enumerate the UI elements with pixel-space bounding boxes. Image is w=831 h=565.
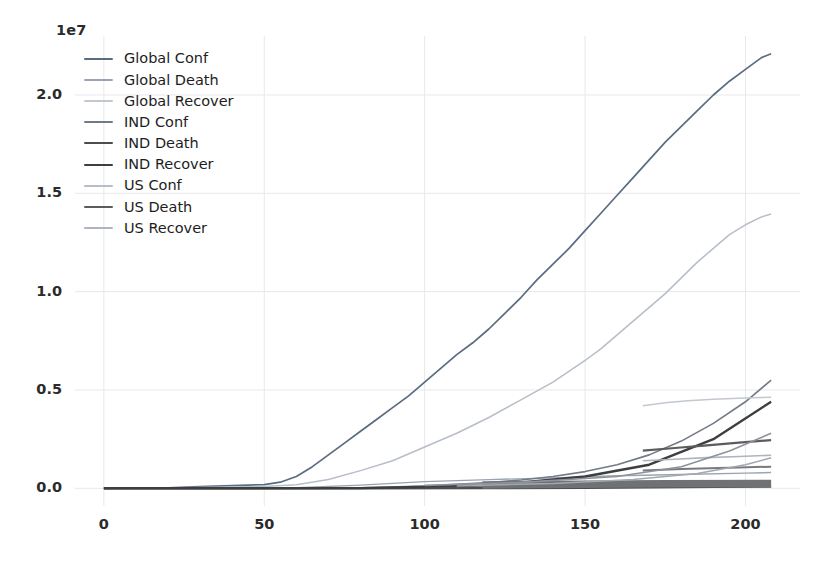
y-tick-label: 1.5: [36, 184, 62, 200]
legend-line-swatch: [84, 142, 113, 144]
legend-item-label: US Death: [124, 200, 192, 215]
legend-item: Global Conf: [84, 48, 234, 69]
legend-item-label: Global Recover: [124, 94, 234, 109]
series-line: [643, 397, 771, 405]
legend-item-label: Global Conf: [124, 51, 208, 66]
legend-item: US Recover: [84, 218, 234, 239]
legend-item: US Conf: [84, 175, 234, 196]
x-tick-label: 150: [570, 516, 600, 532]
x-tick-label: 50: [254, 516, 274, 532]
x-tick-label: 200: [730, 516, 760, 532]
legend-item-label: IND Recover: [124, 157, 214, 172]
legend-line-swatch: [84, 58, 113, 60]
legend-line-swatch: [84, 79, 113, 81]
legend-item-label: IND Death: [124, 136, 199, 151]
legend-item-label: Global Death: [124, 73, 219, 88]
legend-item: IND Conf: [84, 112, 234, 133]
legend-item-label: IND Conf: [124, 115, 188, 130]
y-tick-label: 1.0: [36, 283, 62, 299]
legend-item: IND Death: [84, 133, 234, 154]
y-tick-label: 0.5: [36, 381, 62, 397]
legend-line-swatch: [84, 164, 113, 166]
chart-legend: Global ConfGlobal DeathGlobal RecoverIND…: [84, 48, 234, 239]
legend-line-swatch: [84, 206, 113, 208]
legend-line-swatch: [84, 100, 113, 102]
legend-item: Global Recover: [84, 90, 234, 111]
legend-line-swatch: [84, 121, 113, 123]
y-tick-label: 2.0: [36, 86, 62, 102]
series-line: [104, 214, 771, 488]
series-line: [425, 433, 771, 485]
x-tick-label: 100: [410, 516, 440, 532]
legend-item: Global Death: [84, 69, 234, 90]
legend-item: US Death: [84, 196, 234, 217]
legend-item-label: US Conf: [124, 178, 182, 193]
x-tick-label: 0: [99, 516, 109, 532]
legend-item-label: US Recover: [124, 221, 207, 236]
legend-line-swatch: [84, 227, 113, 229]
legend-line-swatch: [84, 185, 113, 187]
y-tick-label: 0.0: [36, 479, 62, 495]
series-line: [104, 380, 771, 488]
legend-item: IND Recover: [84, 154, 234, 175]
chart-figure: 1e7 0.00.51.01.52.0 050100150200 Global …: [0, 0, 831, 565]
